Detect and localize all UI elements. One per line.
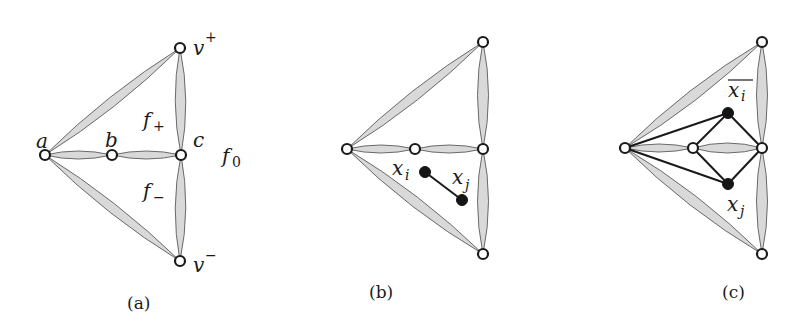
lens-c-bottom [625, 148, 762, 254]
edge-xj-right [728, 148, 762, 184]
vertex-c-mid [688, 143, 698, 153]
label-f-minus-sub: − [153, 189, 165, 205]
lens-a-vminus [45, 155, 180, 261]
vertex-c-left [620, 143, 630, 153]
label-x-i-bar: x [728, 78, 739, 102]
vertex-x-j-c [723, 179, 734, 190]
label-c: c [193, 128, 204, 152]
vertex-b-mid [410, 144, 420, 154]
vertex-b-top [478, 37, 488, 47]
panel-c: x i x j (c) [620, 37, 768, 302]
lens-b-c [112, 151, 181, 159]
vertex-x-j [457, 195, 468, 206]
label-v-plus: v [193, 36, 205, 60]
lens-c-top-right [757, 42, 768, 148]
caption-a: (a) [127, 293, 150, 313]
label-x-j: x [452, 165, 463, 189]
edge-left-xj [625, 148, 728, 184]
label-v-plus-sup: + [205, 29, 217, 45]
label-x-j-c: x [727, 192, 738, 216]
lens-c-right-bottom [757, 148, 768, 254]
vertex-c-top [757, 37, 767, 47]
figure: a b c v + v − f + f − f 0 (a) x i x j (b… [0, 0, 801, 333]
label-f-plus-sub: + [153, 118, 165, 134]
lens-b-top [347, 42, 483, 149]
lens-c-mid-right [693, 143, 762, 153]
label-x-i-bar-sub: i [741, 88, 745, 104]
lens-b-right-bottom [478, 149, 489, 254]
vertex-b-bottom [478, 249, 488, 259]
vertex-b-left [342, 144, 352, 154]
label-f-zero-sub: 0 [232, 154, 241, 170]
lens-b-top-right [478, 42, 489, 149]
caption-c: (c) [722, 282, 745, 302]
label-v-minus-sup: − [205, 247, 217, 263]
lens-a-b [45, 151, 112, 159]
vertex-x-i-bar [723, 108, 734, 119]
label-a: a [36, 129, 48, 153]
label-v-minus: v [193, 253, 205, 277]
panel-a: a b c v + v − f + f − f 0 (a) [36, 29, 241, 313]
vertex-v-minus [175, 256, 185, 266]
vertex-c [176, 150, 186, 160]
panel-b: x i x j (b) [342, 37, 489, 302]
lens-c-vminus [175, 155, 186, 261]
lens-vplus-c [175, 48, 186, 155]
vertex-x-i [420, 167, 431, 178]
vertex-c-right [757, 143, 767, 153]
caption-b: (b) [369, 282, 393, 302]
lens-b-left-mid [347, 145, 415, 153]
vertex-b-right [478, 144, 488, 154]
edge-left-xibar [625, 113, 728, 148]
label-x-i: x [392, 156, 403, 180]
vertex-c-bottom [757, 249, 767, 259]
label-x-i-sub: i [405, 167, 409, 183]
label-b: b [105, 128, 118, 152]
vertex-v-plus [175, 43, 185, 53]
lens-b-mid-right [415, 145, 483, 153]
